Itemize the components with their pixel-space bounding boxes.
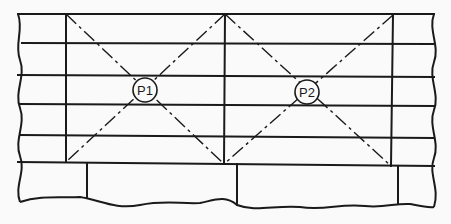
bracing-diagram: P1 P2 <box>0 0 451 224</box>
right-break-line <box>432 14 435 207</box>
p1-label: P1 <box>137 83 153 98</box>
p2-label: P2 <box>299 85 315 100</box>
point-marker-p2: P2 <box>295 80 319 104</box>
point-marker-p1: P1 <box>133 78 157 102</box>
horizontal-course-6 <box>18 162 434 166</box>
horizontal-course-4 <box>20 104 434 106</box>
vertical-post-middle <box>224 14 225 164</box>
horizontal-course-5 <box>20 135 433 138</box>
bottom-break-line <box>20 197 434 208</box>
horizontal-course-2 <box>22 43 433 44</box>
horizontal-course-3 <box>18 75 434 77</box>
vertical-post-right <box>391 15 393 166</box>
